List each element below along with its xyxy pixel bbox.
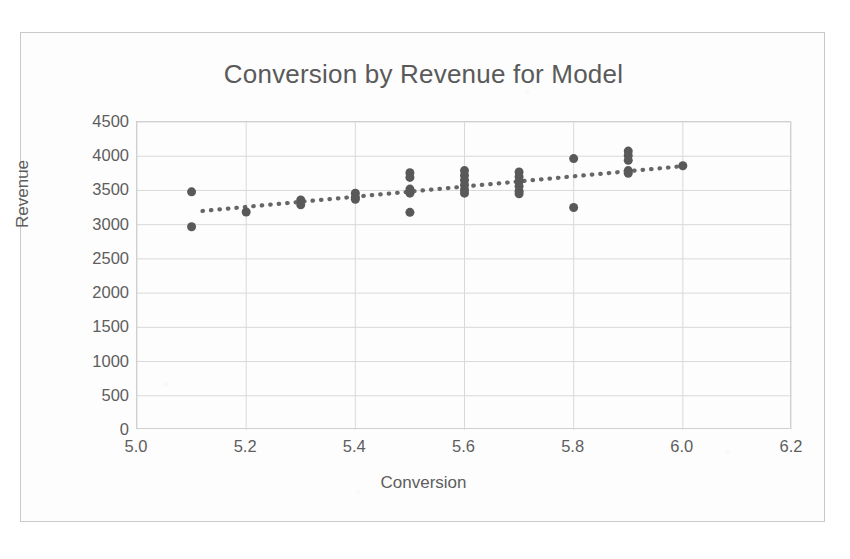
y-axis-tick-label: 3500 [92, 180, 129, 199]
plot-area [136, 121, 791, 429]
y-axis-tick-label: 0 [120, 420, 129, 439]
x-axis-tick-labels: 5.05.25.45.65.86.06.2 [136, 437, 791, 461]
x-axis-tick-label: 6.2 [780, 437, 803, 456]
trendline [203, 166, 683, 211]
y-axis-tick-label: 2500 [92, 248, 129, 267]
y-axis-tick-label: 1000 [92, 351, 129, 370]
x-axis-title: Conversion [21, 473, 826, 493]
y-axis-tick-label: 500 [101, 385, 129, 404]
x-axis-tick-label: 5.0 [125, 437, 148, 456]
x-axis-tick-label: 5.6 [452, 437, 475, 456]
x-axis-tick-label: 6.0 [670, 437, 693, 456]
y-axis-tick-label: 2000 [92, 283, 129, 302]
data-points [187, 147, 687, 232]
y-axis-tick-label: 1500 [92, 317, 129, 336]
x-axis-tick-label: 5.2 [234, 437, 257, 456]
y-axis-title: Revenue [13, 160, 33, 228]
scatter-plot-svg [137, 122, 792, 430]
y-axis-tick-label: 4000 [92, 146, 129, 165]
y-axis-tick-labels: 050010001500200025003000350040004500 [59, 121, 129, 429]
y-axis-tick-label: 3000 [92, 214, 129, 233]
chart-frame: Conversion by Revenue for Model Revenue … [20, 32, 825, 522]
x-axis-tick-label: 5.4 [343, 437, 366, 456]
chart-title: Conversion by Revenue for Model [21, 59, 826, 90]
x-axis-tick-label: 5.8 [561, 437, 584, 456]
y-axis-tick-label: 4500 [92, 112, 129, 131]
